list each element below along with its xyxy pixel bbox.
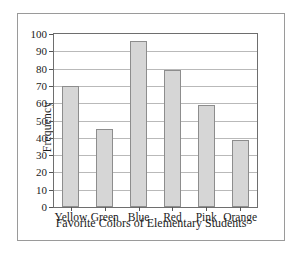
y-tick-label: 70: [36, 80, 47, 91]
y-tick-mark: [49, 207, 53, 208]
y-tick-label: 80: [36, 63, 47, 74]
y-tick-mark: [49, 172, 53, 173]
y-tick-label: 90: [36, 46, 47, 57]
y-tick-mark: [49, 155, 53, 156]
bar-green[interactable]: [96, 129, 113, 207]
y-tick-mark: [49, 121, 53, 122]
bars-layer: [54, 34, 257, 207]
bar-yellow[interactable]: [62, 86, 79, 207]
y-tick-mark: [49, 51, 53, 52]
y-tick-label: 10: [36, 184, 47, 195]
y-tick-mark: [49, 69, 53, 70]
bar-orange[interactable]: [232, 140, 249, 207]
bar-pink[interactable]: [198, 105, 215, 207]
y-tick-mark: [49, 138, 53, 139]
y-tick-label: 60: [36, 98, 47, 109]
y-tick-label: 20: [36, 167, 47, 178]
y-axis-title: Frequency: [41, 102, 53, 152]
x-axis-title: Favorite Colors of Elementary Students: [18, 216, 284, 231]
bar-blue[interactable]: [130, 41, 147, 207]
y-tick-label: 50: [36, 115, 47, 126]
y-tick-label: 100: [31, 29, 48, 40]
y-tick-label: 40: [36, 132, 47, 143]
y-tick-mark: [49, 190, 53, 191]
figure-frame: Frequency 0102030405060708090100 YellowG…: [17, 13, 285, 241]
bar-red[interactable]: [164, 70, 181, 207]
y-tick-label: 0: [42, 202, 48, 213]
y-tick-mark: [49, 103, 53, 104]
y-tick-mark: [49, 34, 53, 35]
y-tick-mark: [49, 86, 53, 87]
plot-area: 0102030405060708090100 YellowGreenBlueRe…: [53, 33, 258, 208]
y-tick-label: 30: [36, 150, 47, 161]
